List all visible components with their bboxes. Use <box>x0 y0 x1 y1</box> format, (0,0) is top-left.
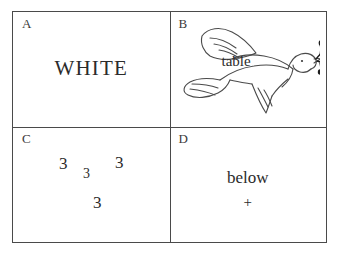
panel-d-letter: D <box>179 132 188 145</box>
digit-2: 3 <box>83 167 90 181</box>
digit-3: 3 <box>115 154 124 171</box>
figure-canvas: A WHITE B <box>0 0 339 256</box>
panel-d-word: below <box>170 169 327 186</box>
panel-d: D below + <box>170 127 327 242</box>
digit-4: 3 <box>93 194 102 211</box>
panel-a-word: WHITE <box>13 58 170 79</box>
panel-a: A WHITE <box>13 12 170 127</box>
panel-c: C 3 3 3 3 <box>13 127 170 242</box>
panel-c-letter: C <box>22 132 31 145</box>
panel-a-letter: A <box>22 17 31 30</box>
panel-d-plus-mark: + <box>170 195 327 210</box>
digit-1: 3 <box>59 155 68 172</box>
panel-b-word: table <box>222 54 251 69</box>
panel-grid: A WHITE B <box>12 11 327 243</box>
panel-b: B <box>170 12 327 127</box>
